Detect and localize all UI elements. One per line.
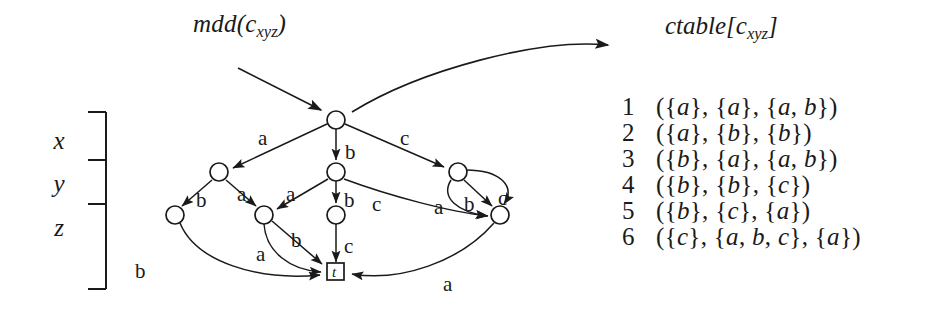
edge-label-z2-t: a [256,242,265,267]
edge-label-z1-t: b [135,259,146,284]
edge-y2-z2 [277,179,328,209]
edge-root-y1 [233,124,327,168]
ctable-row: 6({c}, {a, b, c}, {a}) [622,224,861,250]
ctable-row: 1({a}, {a}, {a, b}) [622,94,861,120]
graph-nodes [166,111,509,280]
edge-label-root-y2: b [345,140,356,165]
ctable-row-tuple: ({b}, {a}, {a, b}) [656,146,861,172]
ctable-caption-close: ] [768,12,778,39]
edge-label-y2-z3: b [344,188,355,213]
ctable-row: 2({a}, {b}, {b}) [622,120,861,146]
edge-label-y1-z1: b [196,188,207,213]
edge-label-root-y3: c [400,126,409,151]
variable-level-bracket [88,112,106,289]
variable-label-y: y [46,170,72,198]
edge-label-z3-t: c [344,234,353,259]
edge-label-y2-z2: a [286,182,295,207]
ctable-row-number: 1 [622,94,656,120]
ctable-pointer-arrow [352,44,608,112]
ctable-row-tuple: ({c}, {a, b, c}, {a}) [656,224,861,250]
node-z1 [166,206,184,224]
edge-label-z2-tb: b [291,228,302,253]
edge-label-y1-z2: a [237,182,246,207]
ctable-row-number: 3 [622,146,656,172]
edge-root-y3 [345,124,444,167]
node-root [327,111,345,129]
edge-z4-terminal [352,223,494,276]
mdd-caption-subscript: xyz [256,22,277,41]
variable-label-x: x [46,127,72,155]
ctable-caption-subscript: xyz [747,24,768,43]
ctable-row-number: 5 [622,198,656,224]
node-y2 [327,163,345,181]
node-y1 [210,163,228,181]
node-z3 [327,206,345,224]
node-z2 [255,206,273,224]
mdd-pointer-arrow [238,68,321,110]
mdd-caption-close: ) [278,10,287,37]
terminal-node-label: t [332,264,336,281]
edge-label-y3-z4: b [464,192,475,217]
ctable-row-number: 6 [622,224,656,250]
ctable-row-number: 4 [622,172,656,198]
mdd-figure: mdd(cxyz) ctable[cxyz] x y z t abcbaabca… [0,0,950,310]
ctable-row: 3({b}, {a}, {a, b}) [622,146,861,172]
edge-label-y3-z4b: c [498,186,507,211]
ctable-row: 5({b}, {c}, {a}) [622,198,861,224]
ctable-row-tuple: ({a}, {b}, {b}) [656,120,861,146]
ctable-row-tuple: ({a}, {a}, {a, b}) [656,94,861,120]
edge-label-y2-z4: c [372,192,381,217]
edge-label-root-y1: a [258,126,267,151]
ctable-row-tuple: ({b}, {c}, {a}) [656,198,861,224]
ctable-caption: ctable[cxyz] [665,12,778,44]
ctable-row: 4({b}, {b}, {c}) [622,172,861,198]
edge-label-z4-t: a [443,272,452,297]
ctable-row-tuple: ({b}, {b}, {c}) [656,172,861,198]
edge-label-y3-t: a [434,195,443,220]
ctable-caption-text: ctable[c [665,12,747,39]
ctable-row-number: 2 [622,120,656,146]
variable-label-z: z [46,214,72,242]
mdd-caption-text: mdd(c [193,10,256,37]
node-y3 [449,163,467,181]
mdd-caption: mdd(cxyz) [193,10,286,42]
ctable-list: 1({a}, {a}, {a, b})2({a}, {b}, {b})3({b}… [622,94,861,250]
